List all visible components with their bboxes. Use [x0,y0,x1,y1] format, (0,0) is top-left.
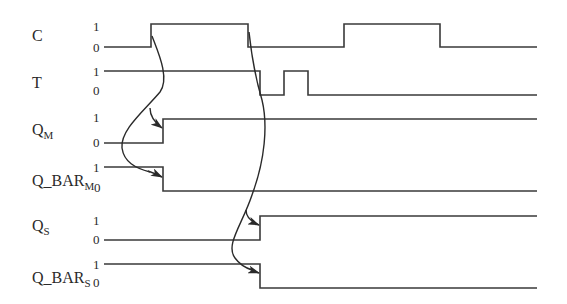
waveform-t [104,71,537,95]
waveform-qm [104,119,537,143]
causal-curve-c-rise [122,36,164,172]
waveform-qbars [104,264,537,288]
causal-arrow-to-qbars [250,269,259,273]
waveform-qs [104,216,537,240]
waveform-qbarm [104,167,537,191]
waveform-c [104,24,537,47]
timing-diagram-canvas [0,0,567,304]
causal-arrow-to-qs [246,210,259,225]
causal-arrow-to-qbarm [148,171,162,177]
causal-arrow-to-qm [150,108,162,128]
